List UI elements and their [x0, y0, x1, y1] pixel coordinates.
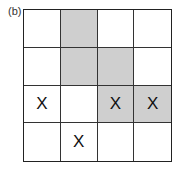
- grid-cell-r1-c1: [61, 48, 98, 86]
- grid-cell-r3-c0: [24, 123, 61, 161]
- grid-cell-r2-c2: X: [98, 86, 135, 124]
- grid-cell-r3-c1: X: [61, 123, 98, 161]
- grid-cell-r0-c1: [61, 10, 98, 48]
- grid-cell-r0-c0: [24, 10, 61, 48]
- grid-cell-r3-c2: [98, 123, 135, 161]
- grid-cell-r1-c0: [24, 48, 61, 86]
- grid-cell-r1-c3: [134, 48, 171, 86]
- grid-cell-r1-c2: [98, 48, 135, 86]
- grid-cell-r2-c3: X: [134, 86, 171, 124]
- grid-cell-r2-c0: X: [24, 86, 61, 124]
- grid-cell-r0-c2: [98, 10, 135, 48]
- grid: XXXX: [23, 9, 172, 162]
- grid-cell-r2-c1: [61, 86, 98, 124]
- grid-cell-r3-c3: [134, 123, 171, 161]
- panel-label: (b): [8, 5, 21, 17]
- grid-cell-r0-c3: [134, 10, 171, 48]
